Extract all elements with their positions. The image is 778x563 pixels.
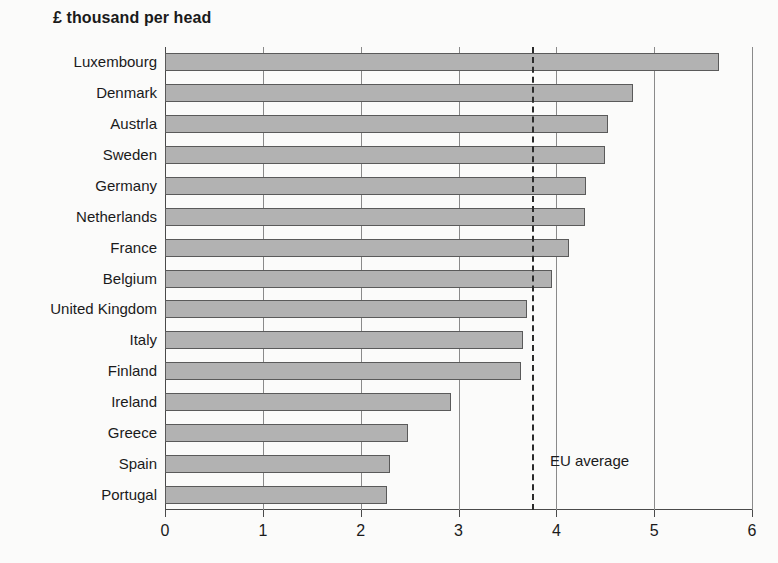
x-tickmark-5 (654, 510, 655, 517)
eu-average-label: EU average (550, 452, 629, 469)
x-ticklabel-0: 0 (161, 522, 170, 540)
bar-row (165, 455, 752, 473)
x-tickmark-3 (459, 510, 460, 517)
bar-row (165, 177, 752, 195)
x-tickmark-2 (361, 510, 362, 517)
bar-sweden[interactable] (165, 146, 605, 164)
y-label-spain: Spain (0, 456, 157, 471)
y-label-luxembourg: Luxembourg (0, 54, 157, 69)
bar-row (165, 239, 752, 257)
x-tickmark-4 (556, 510, 557, 517)
x-tickmark-0 (165, 510, 166, 517)
x-ticklabel-6: 6 (748, 522, 757, 540)
bar-row (165, 208, 752, 226)
x-ticklabel-3: 3 (454, 522, 463, 540)
x-tickmark-6 (752, 510, 753, 517)
y-label-portugal: Portugal (0, 487, 157, 502)
chart-page: £ thousand per head LuxembourgDenmarkAus… (0, 0, 778, 563)
bar-belgium[interactable] (165, 270, 552, 288)
y-label-denmark: Denmark (0, 85, 157, 100)
gridline-6 (752, 47, 753, 510)
bar-row (165, 270, 752, 288)
bar-germany[interactable] (165, 177, 586, 195)
page-title: £ thousand per head (53, 9, 211, 27)
bar-netherlands[interactable] (165, 208, 585, 226)
bar-greece[interactable] (165, 424, 408, 442)
bar-row (165, 393, 752, 411)
bar-row (165, 486, 752, 504)
x-ticklabel-1: 1 (258, 522, 267, 540)
y-label-netherlands: Netherlands (0, 209, 157, 224)
y-label-germany: Germany (0, 178, 157, 193)
bar-row (165, 146, 752, 164)
x-ticklabel-5: 5 (650, 522, 659, 540)
bar-portugal[interactable] (165, 486, 387, 504)
eu-average-line (532, 47, 534, 510)
y-label-sweden: Sweden (0, 147, 157, 162)
plot-area: EU average (165, 47, 752, 510)
bar-luxembourg[interactable] (165, 53, 719, 71)
bar-spain[interactable] (165, 455, 390, 473)
bar-row (165, 424, 752, 442)
x-tickmark-1 (263, 510, 264, 517)
y-label-austrla: Austrla (0, 116, 157, 131)
y-label-france: France (0, 240, 157, 255)
bar-finland[interactable] (165, 362, 521, 380)
bar-row (165, 331, 752, 349)
y-label-ireland: Ireland (0, 394, 157, 409)
bar-row (165, 362, 752, 380)
y-label-finland: Finland (0, 363, 157, 378)
bar-france[interactable] (165, 239, 569, 257)
bar-ireland[interactable] (165, 393, 451, 411)
bar-austrla[interactable] (165, 115, 608, 133)
y-label-italy: Italy (0, 332, 157, 347)
bar-row (165, 300, 752, 318)
bar-italy[interactable] (165, 331, 523, 349)
y-axis-category-labels: LuxembourgDenmarkAustrlaSwedenGermanyNet… (0, 47, 157, 510)
bar-row (165, 53, 752, 71)
x-ticklabel-4: 4 (552, 522, 561, 540)
x-ticklabel-2: 2 (356, 522, 365, 540)
bar-row (165, 84, 752, 102)
bar-row (165, 115, 752, 133)
x-axis-ticks: 0123456 (165, 510, 752, 560)
y-label-greece: Greece (0, 425, 157, 440)
y-label-united-kingdom: United Kingdom (0, 301, 157, 316)
bar-denmark[interactable] (165, 84, 633, 102)
bar-united-kingdom[interactable] (165, 300, 527, 318)
y-label-belgium: Belgium (0, 271, 157, 286)
